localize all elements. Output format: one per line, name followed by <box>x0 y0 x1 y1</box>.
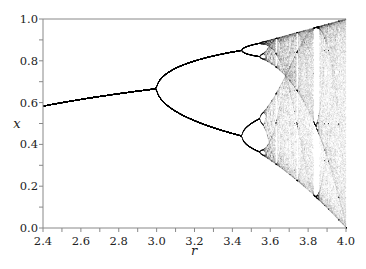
bifurcation-chart: 2.42.62.83.03.23.43.63.84.0 0.00.20.40.6… <box>0 0 366 269</box>
x-axis-label: r <box>191 243 198 258</box>
y-axis-label: x <box>13 116 21 131</box>
x-tick-label: 2.8 <box>110 234 128 248</box>
y-tick-label: 0.2 <box>20 179 38 193</box>
x-tick-label: 3.8 <box>299 234 317 248</box>
y-tick-label: 1.0 <box>20 12 38 26</box>
y-tick-label: 0.4 <box>20 137 38 151</box>
y-tick-label: 0.6 <box>20 96 38 110</box>
x-tick-label: 2.4 <box>34 234 52 248</box>
x-tick-label: 3.6 <box>261 234 279 248</box>
x-tick-label: 3.4 <box>223 234 241 248</box>
y-tick-label: 0.0 <box>20 221 38 235</box>
attractor-points <box>43 19 347 228</box>
x-tick-label: 4.0 <box>337 234 355 248</box>
x-tick-label: 2.6 <box>72 234 90 248</box>
y-axis-ticks: 0.00.20.40.60.81.0 <box>20 12 43 235</box>
y-tick-label: 0.8 <box>20 54 38 68</box>
x-tick-label: 3.0 <box>147 234 165 248</box>
plot-points <box>43 19 347 228</box>
